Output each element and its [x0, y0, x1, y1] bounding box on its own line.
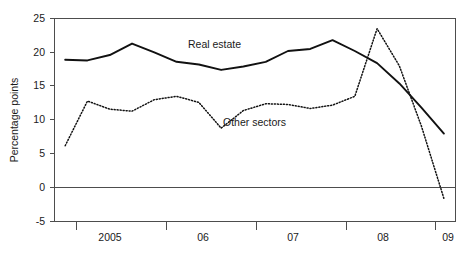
x-tick-label: 08	[377, 231, 389, 243]
x-axis-tick-labels: 2005 06 07 08 09	[98, 231, 454, 243]
y-tick-label: 10	[33, 113, 45, 125]
chart-container: 25 20 15 10 5 0 -5 2005 06 07 08 09 Perc…	[0, 0, 469, 254]
y-axis-tick-labels: 25 20 15 10 5 0 -5	[33, 12, 45, 227]
y-axis-ticks	[50, 19, 55, 222]
y-tick-label: 0	[39, 181, 45, 193]
series-line-other-sectors	[65, 29, 444, 199]
y-tick-label: -5	[36, 215, 45, 227]
x-axis-ticks	[77, 222, 436, 230]
y-tick-label: 15	[33, 79, 45, 91]
y-axis-title: Percentage points	[8, 78, 20, 163]
y-tick-label: 25	[33, 12, 45, 24]
x-tick-label: 09	[442, 231, 454, 243]
line-chart: 25 20 15 10 5 0 -5 2005 06 07 08 09 Perc…	[0, 0, 469, 254]
x-tick-label: 06	[197, 231, 209, 243]
series-annotation-other-sectors: Other sectors	[223, 116, 286, 128]
x-tick-label: 07	[287, 231, 299, 243]
x-tick-label: 2005	[98, 231, 122, 243]
y-tick-label: 20	[33, 46, 45, 58]
y-tick-label: 5	[39, 147, 45, 159]
series-annotation-real-estate: Real estate	[188, 38, 241, 50]
